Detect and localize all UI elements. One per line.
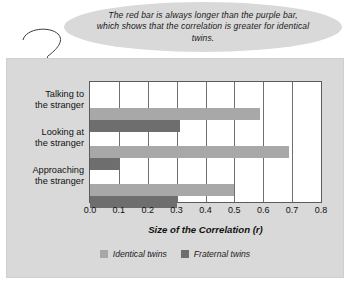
legend-swatch-icon bbox=[100, 250, 108, 258]
callout-text: The red bar is always longer than the pu… bbox=[96, 10, 310, 44]
bar-identical-0 bbox=[90, 108, 260, 120]
plot-area bbox=[89, 81, 322, 203]
category-label-line: the stranger bbox=[10, 176, 84, 187]
legend-label: Identical twins bbox=[113, 249, 167, 259]
chart-inner: Talking to the stranger Looking at the s… bbox=[7, 59, 343, 277]
category-label-talking: Talking to the stranger bbox=[10, 89, 84, 111]
x-tick-label: 0.1 bbox=[113, 205, 126, 215]
x-tick-label: 0.4 bbox=[199, 205, 212, 215]
gridline bbox=[292, 82, 293, 202]
x-tick-label: 0.7 bbox=[286, 205, 299, 215]
chart-legend: Identical twinsFraternal twins bbox=[7, 249, 343, 259]
category-label-line: the stranger bbox=[10, 100, 84, 111]
x-tick-label: 0.3 bbox=[170, 205, 183, 215]
x-tick-label: 0.0 bbox=[84, 205, 97, 215]
gridline bbox=[263, 82, 264, 202]
x-axis-ticks: 0.00.10.20.30.40.50.60.70.8 bbox=[89, 205, 322, 219]
chart-figure: Talking to the stranger Looking at the s… bbox=[6, 58, 344, 278]
x-tick-label: 0.8 bbox=[315, 205, 328, 215]
callout-bubble: The red bar is always longer than the pu… bbox=[64, 2, 342, 52]
bar-fraternal-1 bbox=[90, 158, 119, 170]
x-axis-title: Size of the Correlation (r) bbox=[89, 224, 322, 235]
category-label-looking: Looking at the stranger bbox=[10, 127, 84, 149]
legend-item: Identical twins bbox=[100, 249, 167, 259]
bar-identical-1 bbox=[90, 146, 289, 158]
x-tick-label: 0.5 bbox=[228, 205, 241, 215]
category-label-line: Looking at bbox=[10, 127, 84, 138]
legend-swatch-icon bbox=[181, 250, 189, 258]
x-tick-label: 0.2 bbox=[141, 205, 154, 215]
gridline bbox=[234, 82, 235, 202]
bar-fraternal-0 bbox=[90, 120, 180, 132]
bar-identical-2 bbox=[90, 184, 234, 196]
legend-label: Fraternal twins bbox=[194, 249, 250, 259]
legend-item: Fraternal twins bbox=[181, 249, 250, 259]
category-label-line: the stranger bbox=[10, 138, 84, 149]
category-label-line: Approaching bbox=[10, 165, 84, 176]
category-label-approaching: Approaching the stranger bbox=[10, 165, 84, 187]
category-label-line: Talking to bbox=[10, 89, 84, 100]
x-tick-label: 0.6 bbox=[257, 205, 270, 215]
